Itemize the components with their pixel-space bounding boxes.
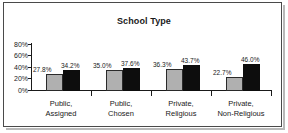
chart-screenshot: School Type 80% 60% 40% 20% 0% 27.8% 34.… [0, 0, 288, 133]
bar-label-black-private-nonreligious: 46.0% [241, 56, 259, 63]
y-tick-40 [28, 67, 32, 68]
bar-label-gray-public-assigned: 27.8% [33, 66, 51, 73]
category-label-line-1: Private, [209, 99, 273, 109]
y-axis-label-80: 80% [2, 41, 28, 48]
chart-title: School Type [0, 16, 288, 26]
bar-label-gray-private-religious: 36.3% [153, 61, 171, 68]
category-label-line-2: Non-Religious [209, 109, 273, 119]
bar-gray-public-chosen [106, 70, 123, 91]
category-label-line-2: Chosen [91, 109, 151, 119]
category-label-public-assigned: Public, Assigned [31, 99, 91, 118]
category-label-private-nonreligious: Private, Non-Religious [209, 99, 273, 118]
y-axis-label-40: 40% [2, 64, 28, 71]
y-axis-label-0: 0% [2, 87, 28, 94]
bar-gray-private-religious [166, 69, 183, 91]
y-axis-label-20: 20% [2, 75, 28, 82]
category-label-private-religious: Private, Religious [151, 99, 211, 118]
category-label-public-chosen: Public, Chosen [91, 99, 151, 118]
bar-black-public-chosen [123, 68, 140, 91]
category-label-line-2: Religious [151, 109, 211, 119]
category-label-line-1: Public, [91, 99, 151, 109]
bar-label-black-public-assigned: 34.2% [61, 62, 79, 69]
bar-label-black-private-religious: 43.7% [181, 57, 199, 64]
bar-label-black-public-chosen: 37.6% [121, 60, 139, 67]
y-tick-80 [28, 44, 32, 45]
x-axis-separator-3 [211, 91, 212, 96]
category-label-line-1: Public, [31, 99, 91, 109]
bar-gray-public-assigned [46, 74, 63, 91]
bar-label-gray-public-chosen: 35.0% [93, 62, 111, 69]
bar-black-public-assigned [63, 70, 80, 91]
category-label-line-2: Assigned [31, 109, 91, 119]
x-axis-separator-2 [151, 91, 152, 96]
x-axis-separator-1 [91, 91, 92, 96]
x-axis-separator-4 [271, 91, 272, 96]
category-label-line-1: Private, [151, 99, 211, 109]
bar-black-private-nonreligious [243, 64, 260, 91]
y-tick-20 [28, 78, 32, 79]
y-tick-60 [28, 55, 32, 56]
y-tick-0 [28, 90, 32, 91]
bar-gray-private-nonreligious [226, 77, 243, 91]
bar-black-private-religious [183, 65, 200, 91]
y-axis-label-60: 60% [2, 52, 28, 59]
frame-shadow-bottom [6, 128, 285, 130]
bar-label-gray-private-nonreligious: 22.7% [213, 69, 231, 76]
